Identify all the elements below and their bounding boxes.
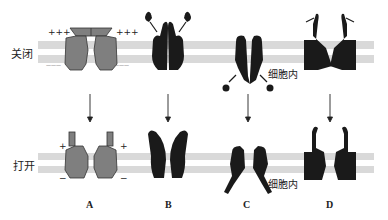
charge-plus-right-open: + bbox=[120, 141, 128, 151]
charge-plus-left-closed: +++ bbox=[48, 27, 71, 37]
charge-minus-right-closed: ——— bbox=[114, 62, 129, 68]
closed-row-label: 关闭 bbox=[11, 45, 33, 61]
charge-minus-left-open: − bbox=[59, 173, 67, 183]
intracellular-label-closed: 细胞内 bbox=[268, 66, 298, 81]
charge-minus-left-closed: ——— bbox=[46, 62, 61, 68]
transition-arrows bbox=[88, 94, 333, 122]
panel-letter-a: A bbox=[86, 199, 93, 210]
panel-letter-c: C bbox=[243, 199, 250, 210]
charge-plus-right-closed: +++ bbox=[116, 27, 139, 37]
intracellular-label-open: 细胞内 bbox=[268, 176, 298, 191]
charge-plus-left-open: + bbox=[59, 141, 67, 151]
open-row-label: 打开 bbox=[13, 157, 35, 173]
panel-letter-d: D bbox=[326, 199, 333, 210]
panel-letter-b: B bbox=[165, 199, 172, 210]
ion-channel-gating-diagram: 关闭 打开 +++ +++ ——— ——— + + − − 细胞内 细胞内 A … bbox=[0, 0, 388, 220]
charge-minus-right-open: − bbox=[120, 173, 128, 183]
